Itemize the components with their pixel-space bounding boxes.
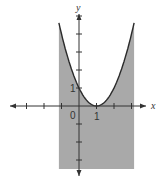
x-axis-label: x [150, 100, 156, 111]
y-axis-label: y [75, 2, 81, 13]
parabola-graph: x y 0 1 1 [0, 0, 164, 186]
origin-label: 0 [70, 110, 76, 121]
shaded-region [59, 23, 134, 169]
x-tick-label-1: 1 [94, 111, 100, 122]
y-tick-label-1: 1 [70, 83, 76, 94]
